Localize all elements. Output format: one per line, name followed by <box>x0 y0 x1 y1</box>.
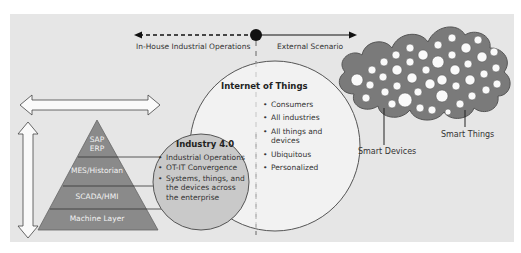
iot-item: Consumers <box>263 100 331 109</box>
smart-things-cloud <box>339 27 510 145</box>
scope-arrow-left <box>134 32 255 39</box>
industry40-title: Industry 4.0 <box>176 139 234 149</box>
pyramid-layer-machine: Machine Layer <box>57 215 137 224</box>
iot-list: Consumers All industries All things and … <box>263 100 331 176</box>
pyramid-layer-scada-hmi: SCADA/HMI <box>57 193 137 202</box>
iot-title: Internet of Things <box>221 81 308 91</box>
scope-divider-dot <box>250 29 262 41</box>
scope-arrow-right <box>255 32 357 39</box>
smart-things-label: Smart Things <box>441 130 494 140</box>
external-scenario-label: External Scenario <box>277 42 343 51</box>
in-house-operations-label: In-House Industrial Operations <box>136 42 250 51</box>
horizontal-double-arrow <box>20 95 160 115</box>
industry40-item: OT-IT Convergence <box>158 163 250 172</box>
iot-item: Personalized <box>263 163 331 172</box>
iot-item: Ubiquitous <box>263 150 331 159</box>
smart-devices-label: Smart Devices <box>358 147 416 157</box>
industry40-item: Systems, things, and the devices across … <box>158 174 250 202</box>
pyramid-layer-sap-erp: SAP ERP <box>57 136 137 153</box>
industry40-item: Industrial Operations <box>158 153 250 162</box>
erp-label: ERP <box>57 145 137 154</box>
industry40-list: Industrial Operations OT-IT Convergence … <box>158 153 250 203</box>
pyramid-layer-mes-historian: MES/Historian <box>57 167 137 176</box>
iot-item: All things and devices <box>263 127 331 146</box>
iot-item: All industries <box>263 113 331 122</box>
vertical-double-arrow <box>18 122 38 238</box>
